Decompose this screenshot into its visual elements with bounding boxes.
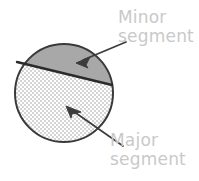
major-segment-label-line2: segment: [110, 150, 186, 169]
major-segment-label-line1: Major: [110, 131, 186, 150]
circle-segments-figure: Minor segment Major segment: [0, 0, 199, 181]
minor-segment-label: Minor segment: [118, 8, 194, 46]
minor-segment-label-line2: segment: [118, 27, 194, 46]
minor-segment-label-line1: Minor: [118, 8, 194, 27]
major-segment-label: Major segment: [110, 131, 186, 169]
